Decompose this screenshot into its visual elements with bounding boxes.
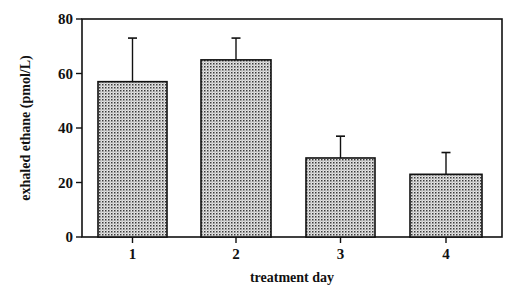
y-tick-label: 60 (58, 66, 73, 82)
bar (410, 174, 482, 237)
bars (98, 38, 482, 237)
y-tick-label: 20 (58, 175, 73, 191)
bar-group (410, 153, 482, 237)
bar-group (201, 38, 271, 237)
bar-group (98, 38, 167, 237)
x-axis-title: treatment day (250, 270, 334, 285)
x-tick-label: 3 (337, 246, 345, 262)
bar (98, 82, 167, 237)
bar (306, 158, 375, 237)
bar (201, 60, 271, 237)
bar-chart: 020406080 1234 treatment day exhaled eth… (0, 0, 514, 302)
y-axis-title: exhaled ethane (pmol/L) (18, 55, 34, 201)
x-axis: 1234 (129, 237, 451, 262)
y-axis: 020406080 (58, 11, 82, 245)
y-tick-label: 80 (58, 11, 73, 27)
y-tick-label: 40 (58, 120, 73, 136)
bar-group (306, 136, 375, 237)
x-tick-label: 1 (129, 246, 137, 262)
x-tick-label: 2 (232, 246, 240, 262)
x-tick-label: 4 (442, 246, 450, 262)
y-tick-label: 0 (66, 229, 74, 245)
